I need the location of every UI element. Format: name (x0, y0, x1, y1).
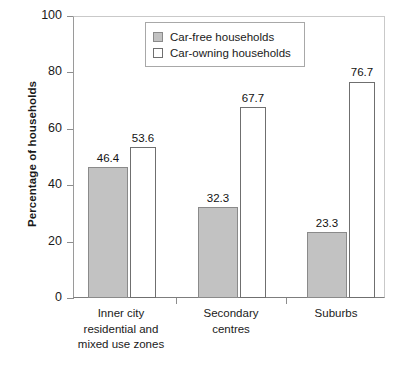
y-tick-label: 100 (16, 8, 62, 22)
x-category-label-line: Inner city (66, 306, 176, 322)
bar-value-label: 32.3 (193, 192, 243, 204)
y-tick-label: 60 (16, 121, 62, 135)
x-category-label-line: mixed use zones (66, 337, 176, 353)
x-category-label-line: residential and (66, 322, 176, 338)
chart-legend: Car-free households Car-owning household… (145, 22, 305, 67)
y-tick-label: 20 (16, 234, 62, 248)
y-tick-label: 40 (16, 177, 62, 191)
bar-value-label: 23.3 (302, 217, 352, 229)
bar-car-free-inner-city[interactable] (88, 167, 128, 298)
x-category-separator (176, 298, 177, 304)
y-tick-line (67, 298, 74, 299)
legend-label: Car-free households (170, 31, 274, 43)
legend-item-car-owning[interactable]: Car-owning households (153, 45, 297, 60)
bar-value-label: 76.7 (337, 66, 387, 78)
legend-item-car-free[interactable]: Car-free households (153, 29, 297, 44)
gray-filled-swatch-icon (153, 32, 163, 42)
bar-chart: Percentage of households 100 80 60 40 20… (0, 0, 405, 373)
x-category-label-line: centres (176, 322, 286, 338)
y-tick-label: 80 (16, 64, 62, 78)
bar-value-label: 46.4 (83, 152, 133, 164)
x-category-label-secondary-centres: Secondary centres (176, 306, 286, 337)
bar-value-label: 53.6 (118, 132, 168, 144)
x-category-label-inner-city: Inner city residential and mixed use zon… (66, 306, 176, 353)
bar-car-free-secondary-centres[interactable] (198, 207, 238, 298)
x-category-label-line: Secondary (176, 306, 286, 322)
bar-car-owning-suburbs[interactable] (349, 82, 375, 298)
bar-car-owning-secondary-centres[interactable] (240, 107, 266, 298)
x-category-separator (286, 298, 287, 304)
y-tick-label: 0 (16, 290, 62, 304)
bar-value-label: 67.7 (228, 92, 278, 104)
bar-car-free-suburbs[interactable] (307, 232, 347, 298)
legend-label: Car-owning households (170, 47, 291, 59)
bar-car-owning-inner-city[interactable] (130, 147, 156, 298)
x-category-label-line: Suburbs (286, 306, 386, 322)
white-outline-swatch-icon (153, 48, 163, 58)
x-category-label-suburbs: Suburbs (286, 306, 386, 322)
